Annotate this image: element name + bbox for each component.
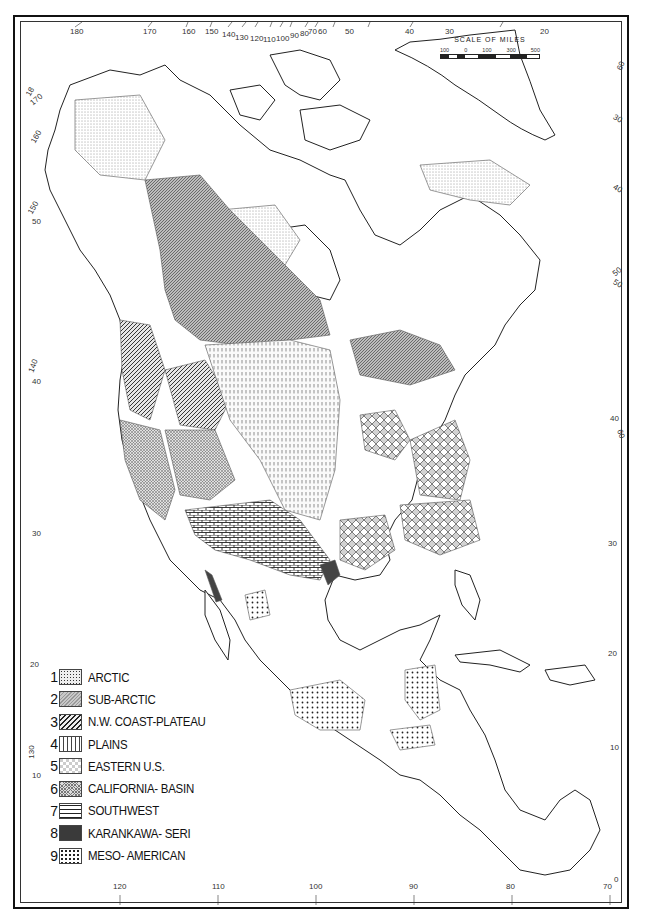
lon-label-top: 140	[222, 31, 235, 39]
lon-label-top: 20	[540, 28, 549, 36]
legend-label: MESO- AMERICAN	[88, 848, 185, 863]
legend-item-plains: 4 PLAINS	[50, 733, 226, 755]
lat-label-left: 50	[32, 218, 41, 226]
legend: 1 ARCTIC 2 SUB-ARCTIC 3 N.W. COAST-PLATE…	[50, 666, 226, 867]
lat-label-right: 30	[608, 540, 617, 548]
lon-label-bottom: 100	[309, 883, 322, 891]
legend-item-california-basin: 6 CALIFORNIA- BASIN	[50, 777, 226, 799]
lat-label-left: 20	[30, 661, 39, 669]
swatch-arctic-icon	[59, 669, 82, 685]
legend-label: SOUTHWEST	[88, 803, 159, 818]
legend-item-arctic: 1 ARCTIC	[50, 666, 226, 688]
legend-label: PLAINS	[88, 737, 127, 752]
swatch-nw-coast-icon	[59, 714, 82, 730]
lat-label-left: 30	[32, 530, 41, 538]
legend-number: 4	[50, 736, 58, 752]
lon-label-top: 150	[205, 28, 218, 36]
lat-label-right: 10	[610, 744, 619, 752]
swatch-southwest-icon	[59, 803, 82, 819]
scale-title: SCALE OF MILES	[440, 36, 540, 43]
scale-tick-labels: 100 0 100 300 500	[440, 47, 540, 53]
scale-tick: 300	[507, 47, 516, 53]
lat-label-left: 10	[32, 772, 41, 780]
swatch-plains-icon	[59, 736, 82, 752]
area-arctic-greenland	[420, 160, 530, 205]
swatch-california-basin-icon	[59, 781, 82, 797]
swatch-eastern-us-icon	[59, 758, 82, 774]
legend-item-karankawa-seri: 8 KARANKAWA- SERI	[50, 822, 226, 844]
lon-label-top: 130	[235, 34, 248, 42]
scale-of-miles: SCALE OF MILES 100 0 100 300 500	[440, 36, 540, 59]
lat-label-left: 40	[32, 378, 41, 386]
lon-label-top: 100	[276, 35, 289, 43]
scale-tick: 100	[440, 47, 449, 53]
legend-number: 3	[50, 714, 58, 730]
legend-number: 7	[50, 803, 58, 819]
legend-label: ARCTIC	[88, 670, 129, 685]
legend-item-nw-coast-plateau: 3 N.W. COAST-PLATEAU	[50, 711, 226, 733]
lon-label-top: 50	[345, 28, 354, 36]
legend-number: 2	[50, 691, 58, 707]
lon-label-top: 160	[182, 28, 195, 36]
corner-label: 0	[614, 876, 618, 884]
scale-tick: 500	[531, 47, 540, 53]
legend-number: 8	[50, 825, 58, 841]
lat-label-right: 20	[608, 650, 617, 658]
swatch-sub-arctic-icon	[59, 691, 82, 707]
legend-label: N.W. COAST-PLATEAU	[88, 714, 206, 729]
lon-label-top: 60	[318, 28, 327, 36]
legend-item-eastern-us: 5 EASTERN U.S.	[50, 755, 226, 777]
lon-label-top: 170	[143, 28, 156, 36]
legend-number: 5	[50, 758, 58, 774]
legend-number: 9	[50, 848, 58, 864]
lon-label-bottom: 90	[409, 883, 418, 891]
lon-label-top: 120	[250, 35, 263, 43]
legend-label: KARANKAWA- SERI	[88, 826, 190, 841]
lon-label-top: 180	[70, 28, 83, 36]
legend-number: 1	[50, 669, 58, 685]
lon-label-bottom: 110	[212, 883, 225, 891]
swatch-karankawa-seri-icon	[59, 825, 82, 841]
lon-label-top: 70	[308, 28, 317, 36]
area-eastern-southeast	[400, 500, 480, 555]
lat-label-right: 40	[610, 415, 619, 423]
scale-bar	[440, 54, 540, 59]
legend-number: 6	[50, 781, 58, 797]
lat-label-left: 130	[28, 745, 36, 758]
scale-tick: 0	[464, 47, 467, 53]
lon-label-bottom: 70	[603, 883, 612, 891]
lon-label-bottom: 120	[113, 883, 126, 891]
legend-label: EASTERN U.S.	[88, 759, 165, 774]
legend-item-meso-american: 9 MESO- AMERICAN	[50, 844, 226, 866]
lon-label-top: 110	[263, 36, 276, 44]
legend-item-southwest: 7 SOUTHWEST	[50, 800, 226, 822]
lon-label-top: 40	[405, 28, 414, 36]
legend-item-sub-arctic: 2 SUB-ARCTIC	[50, 688, 226, 710]
lon-label-bottom: 80	[506, 883, 515, 891]
legend-label: CALIFORNIA- BASIN	[88, 781, 194, 796]
legend-label: SUB-ARCTIC	[88, 692, 156, 707]
swatch-meso-american-icon	[59, 848, 82, 864]
lon-label-top: 30	[445, 28, 454, 36]
scale-tick: 100	[482, 47, 491, 53]
lon-label-top: 90	[290, 32, 299, 40]
